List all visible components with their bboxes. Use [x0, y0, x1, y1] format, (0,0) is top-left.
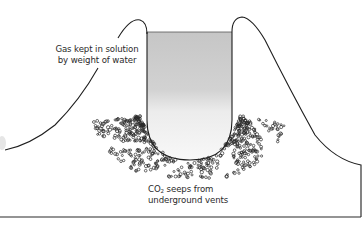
lake-water: [147, 32, 232, 160]
crater-rim-right: [232, 17, 361, 217]
gas-label-line2: by weight of water: [54, 55, 140, 66]
left-edge-shade: [0, 136, 6, 150]
co2-seeps-label: CO2 seeps from underground vents: [148, 184, 228, 205]
gas-label-line1: Gas kept in solution: [54, 44, 140, 55]
co2-prefix: CO: [148, 184, 161, 194]
co2-label-line2: underground vents: [148, 195, 228, 206]
crater-rim-left-upper: [118, 20, 147, 38]
co2-label-line1: CO2 seeps from: [148, 184, 228, 195]
gas-in-solution-label: Gas kept in solution by weight of water: [54, 44, 140, 65]
crater-rim-left-lower: [5, 68, 98, 150]
co2-line1-rest: seeps from: [164, 184, 213, 194]
